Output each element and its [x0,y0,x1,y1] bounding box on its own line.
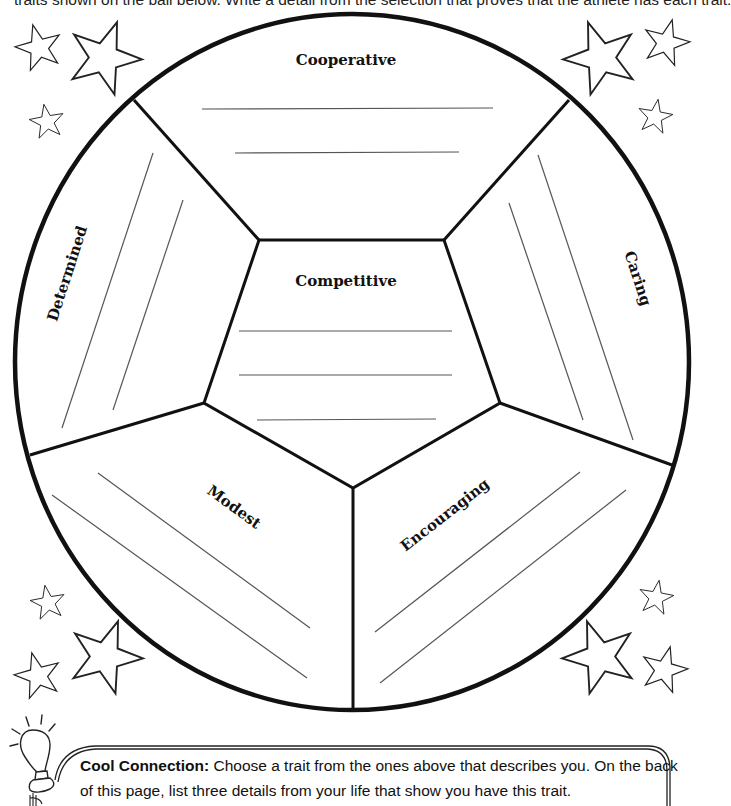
section-label: Competitive [295,272,396,290]
hand-icon [30,793,42,806]
cool-connection-text: Cool Connection: Choose a trait from the… [80,753,680,803]
section-label: Cooperative [296,51,397,69]
cool-connection-title: Cool Connection: [80,757,209,774]
lightbulb-icon [10,715,55,792]
